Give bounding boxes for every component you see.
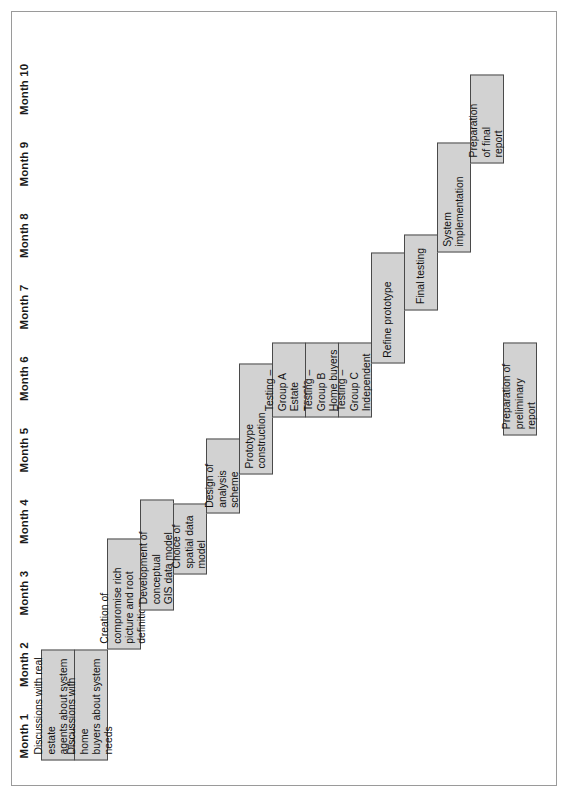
month-axis-label: Month 4 [11, 499, 37, 544]
gantt-task-bar: Testing – Group C Independent [338, 342, 372, 417]
gantt-chart-page: Month 1Month 2Month 3Month 4Month 5Month… [0, 0, 570, 799]
gantt-chart: Month 1Month 2Month 3Month 4Month 5Month… [11, 11, 557, 786]
gantt-task-label: Development of conceptual GIS data model [138, 505, 175, 604]
gantt-task-bar: Design of analysis scheme [206, 438, 240, 513]
month-axis-label: Month 8 [11, 213, 37, 258]
gantt-task-bar: Preparation of final report [470, 74, 504, 163]
gantt-task-bar: Testing – Group B Home buyers [305, 342, 339, 417]
gantt-task-bar: Development of conceptual GIS data model [140, 499, 174, 610]
gantt-task-bar: Discussions with home buyers about syste… [74, 649, 108, 760]
gantt-task-label: System implementation [442, 148, 467, 247]
gantt-task-label: Preparation of preliminary report [501, 348, 538, 429]
gantt-task-bar: Testing – Group A Estate agents [272, 342, 306, 417]
gantt-task-label: Preparation of final report [468, 80, 505, 157]
month-axis-label: Month 7 [11, 284, 37, 329]
gantt-task-bar: Creation of compromise rich picture and … [107, 538, 141, 649]
month-axis-label: Month 10 [11, 63, 37, 114]
gantt-task-bar: Choice of spatial data model [173, 503, 207, 575]
month-axis-label: Month 6 [11, 356, 37, 401]
month-axis-label: Month 5 [11, 427, 37, 472]
gantt-task-bar: Final testing [404, 235, 438, 310]
month-axis-label: Month 9 [11, 141, 37, 186]
rotated-chart-host: Month 1Month 2Month 3Month 4Month 5Month… [11, 11, 557, 786]
gantt-task-bar: Refine prototype [371, 252, 405, 363]
gantt-task-label: Design of analysis scheme [204, 444, 241, 507]
gantt-task-bar: Preparation of preliminary report [503, 342, 537, 435]
gantt-task-label: Choice of spatial data model [171, 509, 208, 569]
gantt-task-label: Testing – Group C Independent [336, 348, 373, 411]
month-axis-label: Month 3 [11, 570, 37, 615]
gantt-task-label: Refine prototype [382, 258, 394, 357]
gantt-task-label: Discussions with home buyers about syste… [66, 655, 116, 754]
gantt-task-label: Final testing [415, 241, 427, 304]
gantt-task-bar: System implementation [437, 142, 471, 253]
gantt-task-label: Testing – Group B Home buyers [303, 348, 340, 411]
